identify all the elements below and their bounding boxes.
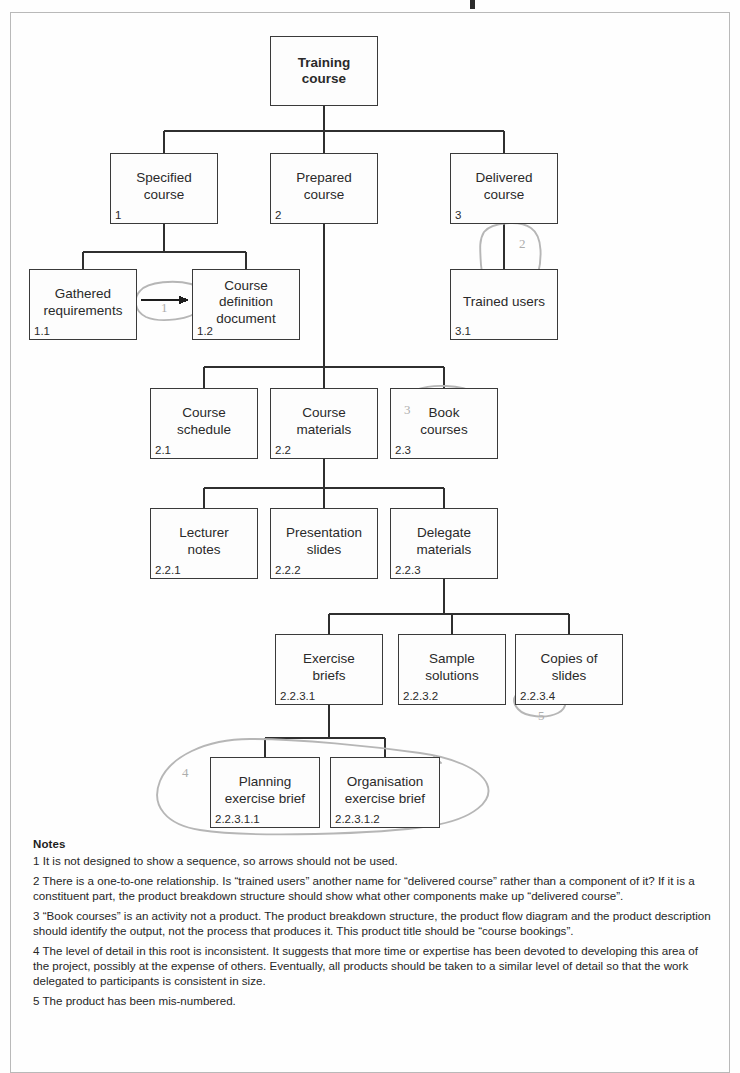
node-label: Delegatematerials xyxy=(414,525,475,558)
node-lecturer_notes: Lecturernotes2.2.1 xyxy=(150,508,258,579)
node-organisation_exercise: Organisationexercise brief2.2.3.1.2 xyxy=(330,757,440,828)
node-label: Coursematerials xyxy=(294,405,355,438)
node-number: 2.2.3.1 xyxy=(280,690,315,702)
notes-heading: Notes xyxy=(33,838,713,850)
node-number: 3 xyxy=(455,209,461,221)
node-prepared_course: Preparedcourse2 xyxy=(270,153,378,224)
annotation-number-5: 5 xyxy=(538,708,545,724)
node-label: Lecturernotes xyxy=(176,525,232,558)
node-number: 2.2.1 xyxy=(155,564,181,576)
notes-list: 1 It is not designed to show a sequence,… xyxy=(33,853,713,1008)
node-book_courses: Bookcourses2.3 xyxy=(390,388,498,459)
node-number: 2 xyxy=(275,209,281,221)
node-number: 1.1 xyxy=(34,325,50,337)
node-label: Trained users xyxy=(460,294,548,311)
node-label: Deliveredcourse xyxy=(472,170,535,203)
node-presentation_slides: Presentationslides2.2.2 xyxy=(270,508,378,579)
annotation-number-4: 4 xyxy=(182,765,189,781)
node-number: 1 xyxy=(115,209,121,221)
annotation-number-2: 2 xyxy=(519,236,526,252)
node-course_schedule: Courseschedule2.1 xyxy=(150,388,258,459)
node-training_course: Trainingcourse xyxy=(270,36,378,106)
node-course_definition_doc: Coursedefinitiondocument1.2 xyxy=(192,269,300,340)
node-number: 2.2.3.4 xyxy=(520,690,555,702)
note-item: 5 The product has been mis-numbered. xyxy=(33,993,713,1008)
node-label: Specifiedcourse xyxy=(133,170,195,203)
node-number: 2.1 xyxy=(155,444,171,456)
node-specified_course: Specifiedcourse1 xyxy=(110,153,218,224)
node-number: 1.2 xyxy=(197,325,213,337)
node-number: 2.2 xyxy=(275,444,291,456)
node-delegate_materials: Delegatematerials2.2.3 xyxy=(390,508,498,579)
node-number: 2.2.2 xyxy=(275,564,301,576)
node-number: 2.2.3.1.1 xyxy=(215,813,260,825)
product-breakdown-structure-diagram: TrainingcourseSpecifiedcourse1Preparedco… xyxy=(0,0,740,840)
node-label: Preparedcourse xyxy=(293,170,355,203)
node-delivered_course: Deliveredcourse3 xyxy=(450,153,558,224)
annotation-number-1: 1 xyxy=(161,300,168,316)
node-trained_users: Trained users3.1 xyxy=(450,269,558,340)
node-number: 2.2.3.1.2 xyxy=(335,813,380,825)
node-gathered_requirements: Gatheredrequirements1.1 xyxy=(29,269,137,340)
note-item: 1 It is not designed to show a sequence,… xyxy=(33,853,713,868)
note-item: 3 “Book courses” is an activity not a pr… xyxy=(33,908,713,938)
node-copies_of_slides: Copies ofslides2.2.3.4 xyxy=(515,634,623,705)
node-label: Bookcourses xyxy=(417,405,470,438)
node-number: 3.1 xyxy=(455,325,471,337)
node-exercise_briefs: Exercisebriefs2.2.3.1 xyxy=(275,634,383,705)
note-item: 2 There is a one-to-one relationship. Is… xyxy=(33,873,713,903)
page-canvas: TrainingcourseSpecifiedcourse1Preparedco… xyxy=(0,0,740,1073)
node-label: Courseschedule xyxy=(174,405,234,438)
node-number: 2.2.3 xyxy=(395,564,421,576)
node-label: Organisationexercise brief xyxy=(342,774,428,807)
node-planning_exercise: Planningexercise brief2.2.3.1.1 xyxy=(210,757,320,828)
node-label: Presentationslides xyxy=(283,525,365,558)
node-label: Gatheredrequirements xyxy=(41,286,126,319)
node-label: Exercisebriefs xyxy=(300,651,358,684)
node-number: 2.3 xyxy=(395,444,411,456)
node-label: Trainingcourse xyxy=(295,55,354,88)
note-item: 4 The level of detail in this root is in… xyxy=(33,943,713,989)
node-number: 2.2.3.2 xyxy=(403,690,438,702)
annotation-number-3: 3 xyxy=(404,402,411,418)
node-label: Copies ofslides xyxy=(537,651,600,684)
node-course_materials: Coursematerials2.2 xyxy=(270,388,378,459)
node-label: Coursedefinitiondocument xyxy=(213,278,278,328)
notes-section: Notes 1 It is not designed to show a seq… xyxy=(33,838,713,1012)
node-sample_solutions: Samplesolutions2.2.3.2 xyxy=(398,634,506,705)
node-label: Samplesolutions xyxy=(422,651,481,684)
node-label: Planningexercise brief xyxy=(222,774,308,807)
